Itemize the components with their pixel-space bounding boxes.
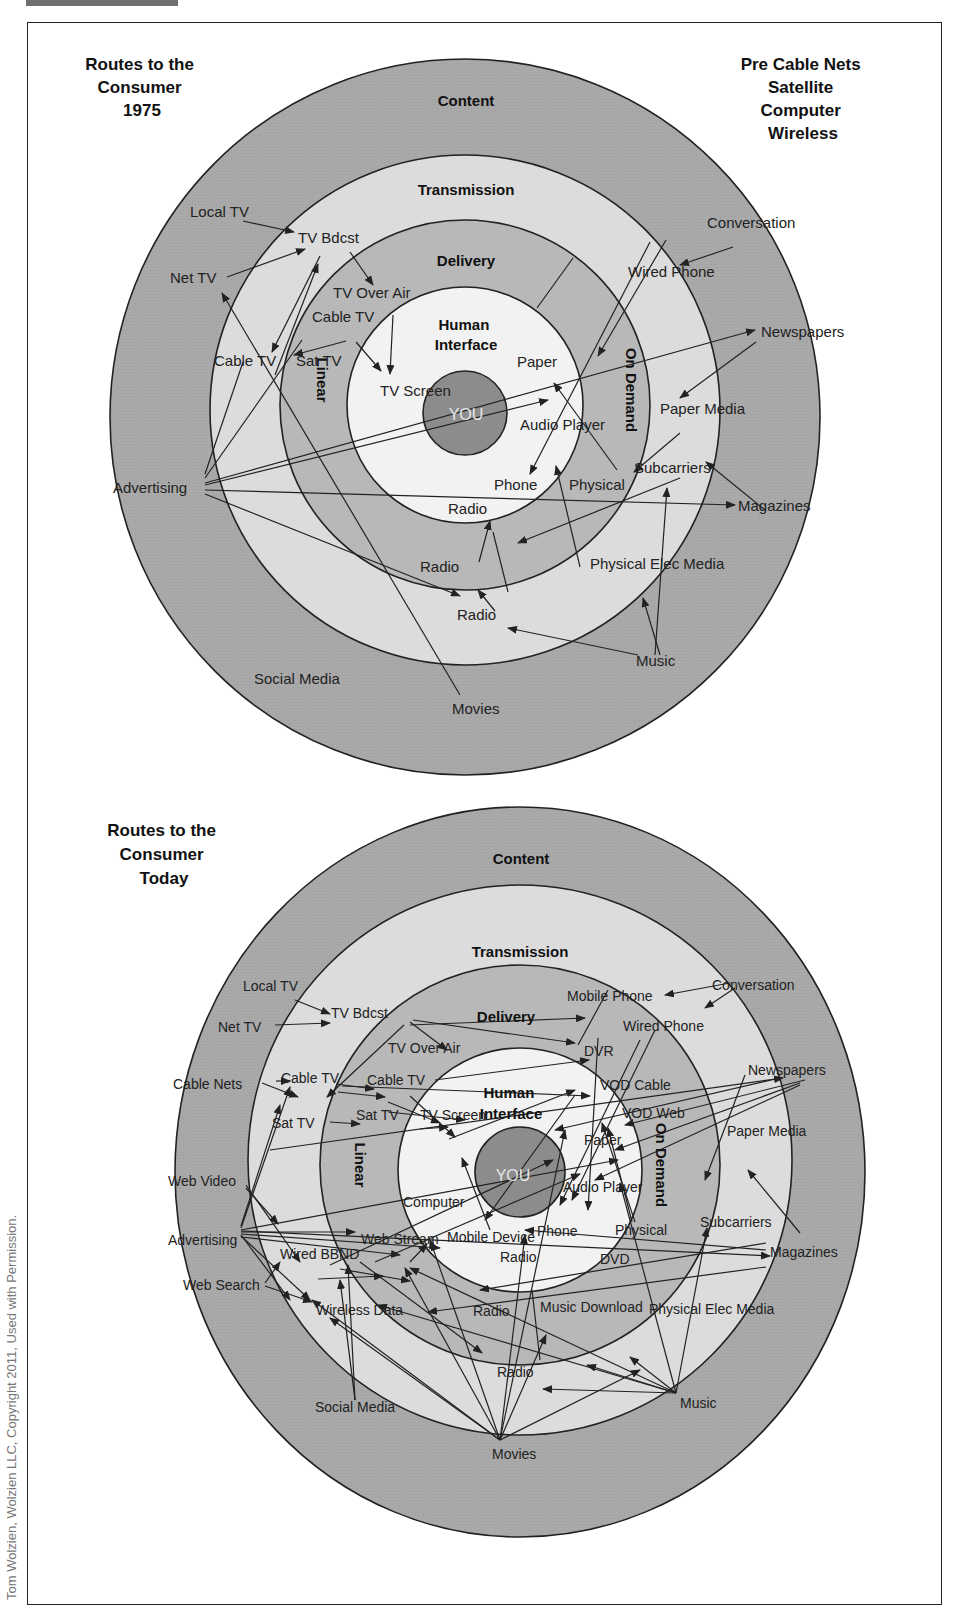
ring-label-on-demand-today: On Demand <box>653 1123 670 1207</box>
title-1975: Routes to the Consumer 1975 <box>85 55 198 120</box>
node-cable-tv-deliv: Cable TV <box>312 308 374 325</box>
node-music: Music <box>636 652 676 669</box>
node-radio-deliv: Radio <box>420 558 459 575</box>
node-advertising-today: Advertising <box>168 1232 237 1248</box>
node-conversation-today: Conversation <box>712 977 795 993</box>
node-sat-tv: Sat TV <box>296 352 342 369</box>
node-music-download: Music Download <box>540 1299 643 1315</box>
node-phone: Phone <box>494 476 537 493</box>
node-subcarriers-today: Subcarriers <box>700 1214 772 1230</box>
node-audio-player-today: Audio Player <box>563 1179 643 1195</box>
node-movies: Movies <box>452 700 500 717</box>
node-tv-screen: TV Screen <box>380 382 451 399</box>
node-vod-web: VOD Web <box>622 1105 685 1121</box>
node-wired-bbnd: Wired BBND <box>280 1246 359 1262</box>
node-paper-today: Paper <box>584 1132 622 1148</box>
node-web-search: Web Search <box>183 1277 260 1293</box>
node-radio-interface-today: Radio <box>500 1249 537 1265</box>
ring-label-transmission-today: Transmission <box>472 943 569 960</box>
node-physical-elec-media-today: Physical Elec Media <box>649 1301 774 1317</box>
core-label-you-today: YOU <box>496 1167 531 1184</box>
node-advertising: Advertising <box>113 479 187 496</box>
node-local-tv: Local TV <box>190 203 249 220</box>
title-today: Routes to the Consumer Today <box>107 821 220 888</box>
node-net-tv-today: Net TV <box>218 1019 262 1035</box>
node-magazines: Magazines <box>738 497 811 514</box>
node-net-tv: Net TV <box>170 269 216 286</box>
node-social-media-today: Social Media <box>315 1399 395 1415</box>
node-dvd: DVD <box>600 1251 630 1267</box>
ring-label-on-demand: On Demand <box>623 348 640 432</box>
node-cable-nets: Cable Nets <box>173 1076 242 1092</box>
node-radio-interface: Radio <box>448 500 487 517</box>
diagram-today: Routes to the Consumer Today Content Tra… <box>107 807 865 1537</box>
ring-label-linear-today: Linear <box>352 1142 369 1187</box>
node-paper-media: Paper Media <box>660 400 746 417</box>
node-physical-deliv-today: Physical <box>615 1222 667 1238</box>
ring-label-content-today: Content <box>493 850 550 867</box>
node-tv-over-air-today: TV Over Air <box>388 1040 461 1056</box>
node-radio-trans: Radio <box>457 606 496 623</box>
node-conversation: Conversation <box>707 214 795 231</box>
node-cable-tv-trans: Cable TV <box>214 352 276 369</box>
node-subcarriers: Subcarriers <box>634 459 711 476</box>
node-sat-tv-trans-today: Sat TV <box>272 1115 315 1131</box>
core-label-you: YOU <box>449 406 484 423</box>
node-wired-phone: Wired Phone <box>628 263 715 280</box>
node-newspapers-today: Newspapers <box>748 1062 826 1078</box>
node-local-tv-today: Local TV <box>243 978 299 994</box>
node-vod-cable: VOD Cable <box>600 1077 671 1093</box>
node-music-today: Music <box>680 1395 717 1411</box>
node-newspapers: Newspapers <box>761 323 844 340</box>
node-mobile-phone: Mobile Phone <box>567 988 653 1004</box>
node-web-stream: Web Stream <box>361 1231 439 1247</box>
node-sat-tv-deliv-today: Sat TV <box>356 1107 399 1123</box>
node-movies-today: Movies <box>492 1446 536 1462</box>
side-note-1975: Pre Cable Nets Satellite Computer Wirele… <box>741 55 866 143</box>
node-cable-tv-trans-today: Cable TV <box>281 1070 340 1086</box>
ring-label-delivery: Delivery <box>437 252 496 269</box>
node-paper-media-today: Paper Media <box>727 1123 807 1139</box>
node-radio-deliv-today: Radio <box>473 1303 510 1319</box>
node-computer: Computer <box>403 1194 465 1210</box>
node-wired-phone-today: Wired Phone <box>623 1018 704 1034</box>
node-cable-tv-deliv-today: Cable TV <box>367 1072 426 1088</box>
node-social-media: Social Media <box>254 670 341 687</box>
node-tv-over-air: TV Over Air <box>333 284 411 301</box>
node-paper: Paper <box>517 353 557 370</box>
node-tv-screen-today: TV Screen <box>420 1107 486 1123</box>
node-web-video: Web Video <box>168 1173 236 1189</box>
ring-label-delivery-today: Delivery <box>477 1008 536 1025</box>
node-tv-bdcst-today: TV Bdcst <box>331 1005 388 1021</box>
routes-diagram: Routes to the Consumer 1975 Pre Cable Ne… <box>0 0 973 1618</box>
node-radio-trans-today: Radio <box>497 1364 534 1380</box>
node-physical-deliv: Physical <box>569 476 625 493</box>
node-mobile-device: Mobile Device <box>447 1229 535 1245</box>
node-audio-player: Audio Player <box>520 416 605 433</box>
ring-label-transmission: Transmission <box>418 181 515 198</box>
node-wireless-data: Wireless Data <box>316 1302 403 1318</box>
ring-label-content: Content <box>438 92 495 109</box>
node-dvr: DVR <box>584 1043 614 1059</box>
diagram-1975: Routes to the Consumer 1975 Pre Cable Ne… <box>85 55 865 775</box>
node-tv-bdcst: TV Bdcst <box>298 229 360 246</box>
node-magazines-today: Magazines <box>770 1244 838 1260</box>
node-phone-today: Phone <box>537 1223 578 1239</box>
node-physical-elec-media: Physical Elec Media <box>590 555 725 572</box>
